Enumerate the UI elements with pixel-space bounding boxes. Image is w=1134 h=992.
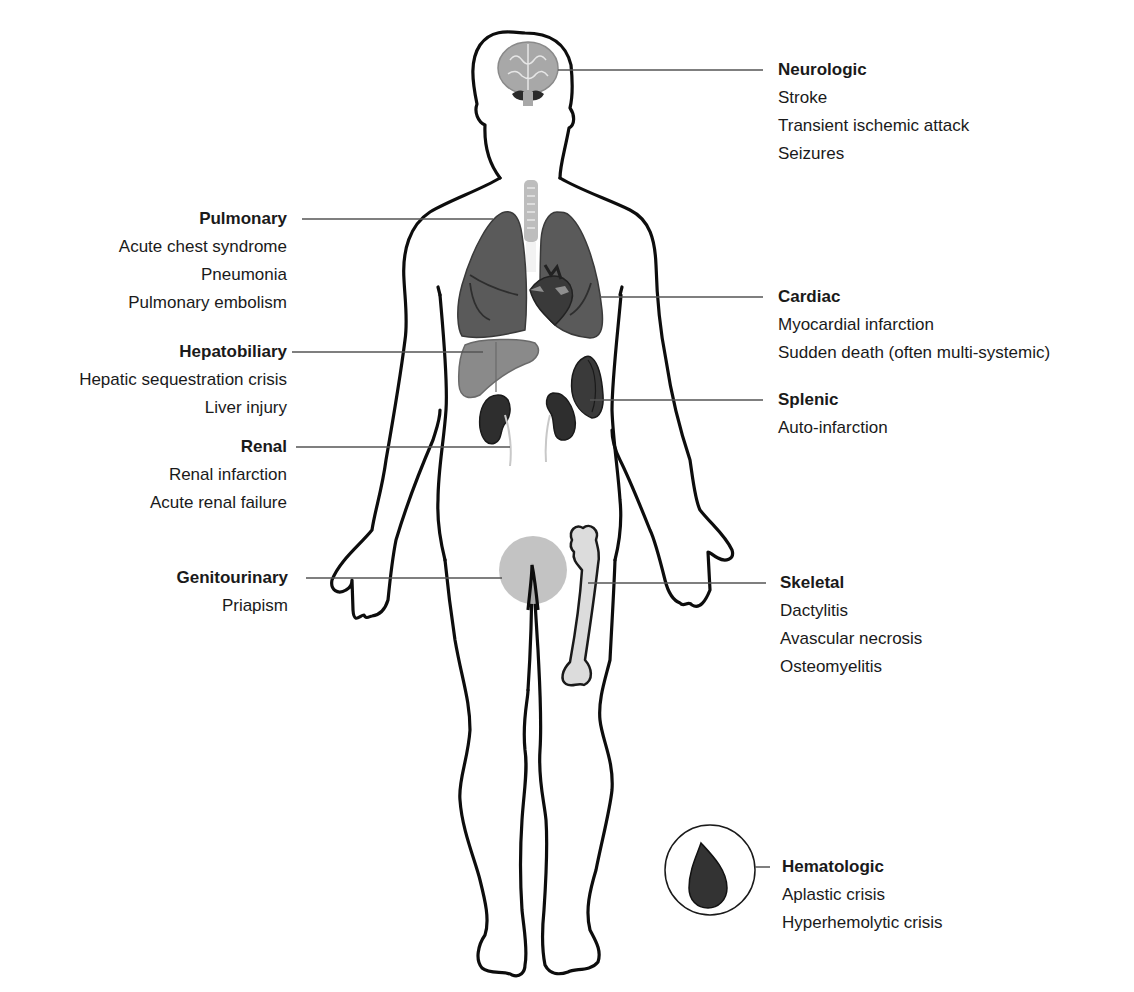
genitourinary-label-group: Genitourinary Priapism bbox=[177, 564, 288, 620]
complication: Hepatic sequestration crisis bbox=[79, 366, 287, 394]
complication: Osteomyelitis bbox=[780, 653, 922, 681]
complication: Pneumonia bbox=[119, 261, 287, 289]
hepatobiliary-label-group: Hepatobiliary Hepatic sequestration cris… bbox=[79, 338, 287, 422]
hematologic-label-group: Hematologic Aplastic crisis Hyperhemolyt… bbox=[782, 853, 943, 937]
pulmonary-label-group: Pulmonary Acute chest syndrome Pneumonia… bbox=[119, 205, 287, 317]
skeletal-label-group: Skeletal Dactylitis Avascular necrosis O… bbox=[780, 569, 922, 681]
body-outline bbox=[332, 32, 733, 976]
complication: Auto-infarction bbox=[778, 414, 888, 442]
femur-bone-icon bbox=[563, 526, 599, 685]
neurologic-label-group: Neurologic Stroke Transient ischemic att… bbox=[778, 56, 969, 168]
system-title: Cardiac bbox=[778, 283, 1050, 311]
complication: Priapism bbox=[177, 592, 288, 620]
ureter-icon bbox=[505, 415, 550, 466]
complication: Avascular necrosis bbox=[780, 625, 922, 653]
system-title: Skeletal bbox=[780, 569, 922, 597]
complication: Acute renal failure bbox=[150, 489, 287, 517]
complication: Sudden death (often multi-systemic) bbox=[778, 339, 1050, 367]
system-title: Hematologic bbox=[782, 853, 943, 881]
kidney-icon bbox=[480, 393, 576, 444]
complication: Acute chest syndrome bbox=[119, 233, 287, 261]
brain-icon bbox=[498, 42, 558, 106]
complication: Seizures bbox=[778, 140, 969, 168]
system-title: Renal bbox=[150, 433, 287, 461]
complication: Renal infarction bbox=[150, 461, 287, 489]
spleen-icon bbox=[572, 356, 604, 418]
sickle-cell-complications-diagram: Neurologic Stroke Transient ischemic att… bbox=[0, 0, 1134, 992]
liver-icon bbox=[459, 339, 539, 397]
splenic-label-group: Splenic Auto-infarction bbox=[778, 386, 888, 442]
complication: Dactylitis bbox=[780, 597, 922, 625]
trachea-icon bbox=[524, 180, 538, 272]
system-title: Neurologic bbox=[778, 56, 969, 84]
complication: Transient ischemic attack bbox=[778, 112, 969, 140]
complication: Myocardial infarction bbox=[778, 311, 1050, 339]
system-title: Hepatobiliary bbox=[79, 338, 287, 366]
system-title: Pulmonary bbox=[119, 205, 287, 233]
complication: Liver injury bbox=[79, 394, 287, 422]
system-title: Splenic bbox=[778, 386, 888, 414]
cardiac-label-group: Cardiac Myocardial infarction Sudden dea… bbox=[778, 283, 1050, 367]
complication: Stroke bbox=[778, 84, 969, 112]
renal-label-group: Renal Renal infarction Acute renal failu… bbox=[150, 433, 287, 517]
complication: Pulmonary embolism bbox=[119, 289, 287, 317]
system-title: Genitourinary bbox=[177, 564, 288, 592]
complication: Aplastic crisis bbox=[782, 881, 943, 909]
complication: Hyperhemolytic crisis bbox=[782, 909, 943, 937]
